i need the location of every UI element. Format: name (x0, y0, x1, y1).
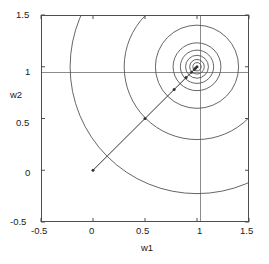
trajectory-marker-2 (173, 88, 176, 91)
contour-plot-figure: -0.5 0 0.5 1 1.5 -0.5 0 0.5 1 1.5 w1 w2 (0, 0, 269, 264)
trajectory-marker-1 (144, 117, 147, 120)
trajectory-marker-3 (185, 76, 188, 79)
x-tick-label-0: -0.5 (31, 226, 47, 236)
trajectory-marker-7 (196, 65, 199, 68)
x-tick-label-1: 0 (89, 226, 94, 236)
y-tick-label-4: 1.5 (16, 10, 29, 20)
y-axis-title: w2 (10, 90, 22, 100)
trajectory-marker-0 (92, 169, 95, 172)
x-axis-title: w1 (141, 243, 153, 253)
y-tick-label-3: 1 (25, 67, 30, 77)
trajectory-marker-4 (190, 71, 193, 74)
x-tick-label-2: 0.5 (136, 226, 149, 236)
x-tick-label-4: 1.5 (240, 226, 253, 236)
y-tick-label-2: 0.5 (16, 118, 29, 128)
y-tick-label-1: 0 (25, 168, 30, 178)
y-tick-label-0: -0.5 (10, 217, 26, 227)
x-tick-label-3: 1 (197, 226, 202, 236)
